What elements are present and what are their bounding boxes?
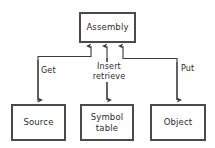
node-source-label: Source xyxy=(23,117,53,128)
edge-label-put: Put xyxy=(180,64,195,74)
node-assembly-label: Assembly xyxy=(86,22,128,33)
node-object[interactable]: Object xyxy=(150,104,206,141)
diagram-canvas: Assembly Source Symbol table Object Get … xyxy=(0,0,215,148)
node-object-label: Object xyxy=(164,117,193,128)
node-symbol-table-label: Symbol table xyxy=(91,112,124,133)
node-assembly[interactable]: Assembly xyxy=(79,12,136,43)
node-symbol-table[interactable]: Symbol table xyxy=(80,104,134,141)
node-source[interactable]: Source xyxy=(11,104,66,141)
edge-put xyxy=(123,46,177,100)
edge-label-get: Get xyxy=(40,66,57,76)
edge-label-insert-retrieve: Insert retrieve xyxy=(88,62,130,82)
